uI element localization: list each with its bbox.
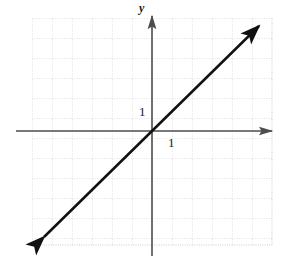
y-axis-tick-label-1: 1 bbox=[139, 105, 146, 118]
coordinate-plane-svg bbox=[0, 0, 282, 260]
y-axis-label: y bbox=[139, 2, 144, 14]
x-axis-tick-label-1: 1 bbox=[168, 136, 175, 149]
graph-figure: y 1 1 bbox=[0, 0, 282, 260]
